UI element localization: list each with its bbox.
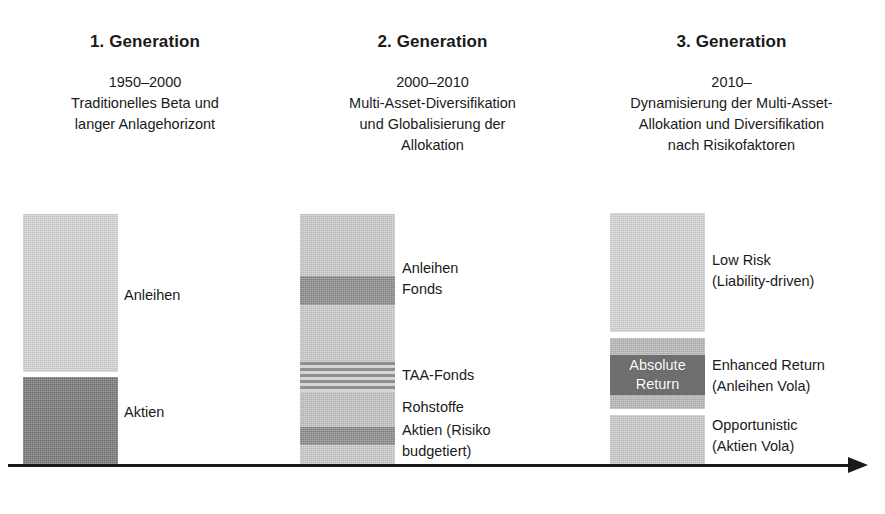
column-title-generation-1: 1. Generation: [0, 32, 290, 52]
bar-label-g2-rohstoffe: Rohstoffe: [402, 397, 464, 418]
column-header-generation-2: 2. Generation 2000–2010 Multi-Asset-Dive…: [280, 32, 585, 156]
bar-segment-g2-band-bottom: [300, 445, 395, 466]
bar-segment-g1-anleihen: [23, 214, 118, 372]
diagram-canvas: 1. Generation 1950–2000 Traditionelles B…: [0, 0, 885, 514]
bar-generation-1: [23, 214, 118, 466]
column-header-generation-1: 1. Generation 1950–2000 Traditionelles B…: [0, 32, 290, 135]
column-description-generation-2: 2000–2010 Multi-Asset-Diversifikation un…: [280, 72, 585, 156]
bar-generation-2: [300, 214, 395, 466]
bar-generation-3: Absolute Return: [610, 213, 705, 466]
bar-segment-g3-opportunistic: [610, 415, 705, 466]
column-title-generation-2: 2. Generation: [280, 32, 585, 52]
bar-segment-g2-band-mid: [300, 305, 395, 362]
bar-label-g2-aktien: Aktien (Risiko budgetiert): [402, 420, 491, 462]
bar-label-g2-taa-fonds: TAA-Fonds: [402, 365, 474, 386]
bar-segment-g2-rohstoffe: [300, 392, 395, 427]
time-axis-line: [8, 464, 850, 467]
bar-label-g3-enhanced-return: Enhanced Return (Anleihen Vola): [712, 355, 825, 397]
column-title-generation-3: 3. Generation: [578, 32, 885, 52]
bar-segment-g2-band-top: [300, 214, 395, 276]
column-header-generation-3: 3. Generation 2010– Dynamisierung der Mu…: [578, 32, 885, 156]
time-axis-arrowhead: [848, 457, 868, 473]
bar-segment-g2-taa-fonds: [300, 362, 395, 392]
bar-label-g1-anleihen: Anleihen: [124, 285, 180, 306]
bar-label-g1-aktien: Aktien: [124, 402, 164, 423]
bar-label-g2-anleihen-fonds: Anleihen Fonds: [402, 258, 458, 300]
bar-segment-g1-aktien: [23, 377, 118, 466]
column-description-generation-1: 1950–2000 Traditionelles Beta und langer…: [0, 72, 290, 135]
bar-inset-g3-absolute-return: Absolute Return: [610, 355, 705, 395]
bar-segment-g2-anleihen-fonds: [300, 276, 395, 305]
bar-segment-g3-low-risk: [610, 213, 705, 332]
bar-segment-g2-aktien: [300, 427, 395, 445]
bar-label-g3-low-risk: Low Risk (Liability-driven): [712, 250, 814, 292]
column-description-generation-3: 2010– Dynamisierung der Multi-Asset- All…: [578, 72, 885, 156]
bar-label-g3-opportunistic: Opportunistic (Aktien Vola): [712, 415, 797, 457]
